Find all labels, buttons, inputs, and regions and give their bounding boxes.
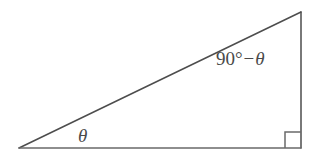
right-angle-marker — [285, 132, 301, 148]
angle-label-complement: 90°−θ — [216, 49, 265, 68]
triangle-diagram — [0, 0, 323, 166]
degree-sign-icon: ° — [235, 48, 243, 69]
angle-label-theta: θ — [78, 126, 87, 145]
minus-operator: − — [243, 48, 256, 69]
hypotenuse-line — [19, 12, 301, 148]
complement-number: 90 — [216, 48, 235, 69]
complement-variable-theta: θ — [255, 48, 264, 69]
figure-canvas: θ 90°−θ — [0, 0, 323, 166]
